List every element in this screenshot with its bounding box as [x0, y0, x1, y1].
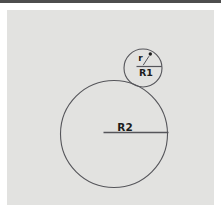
point-marker-dot [149, 52, 152, 55]
point-radius-label: r [138, 53, 143, 63]
drawing-panel [7, 10, 214, 205]
window-top-bar [0, 0, 221, 3]
screenshot-stage: R2 R1 r [0, 0, 221, 211]
small-circle-radius-label: R1 [139, 67, 153, 78]
large-circle-radius-label: R2 [117, 121, 132, 133]
geometry-figure: R2 R1 r [0, 0, 221, 211]
